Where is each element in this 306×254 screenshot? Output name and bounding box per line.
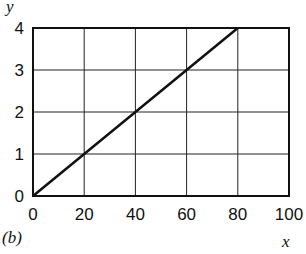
y-tick-label: 4	[15, 19, 24, 38]
x-axis-label: x	[281, 232, 290, 251]
x-tick-label: 80	[228, 205, 247, 224]
y-tick-labels: 01234	[15, 19, 24, 206]
x-tick-labels: 020406080100	[28, 205, 303, 224]
x-tick-label: 60	[177, 205, 196, 224]
x-tick-label: 40	[126, 205, 145, 224]
x-tick-label: 100	[275, 205, 303, 224]
y-tick-label: 0	[15, 187, 24, 206]
y-tick-label: 2	[15, 103, 24, 122]
y-tick-label: 3	[15, 61, 24, 80]
grid-lines	[33, 28, 289, 196]
y-tick-label: 1	[15, 145, 24, 164]
chart: 020406080100 01234 y x (b)	[0, 0, 306, 254]
panel-label: (b)	[2, 228, 22, 247]
x-tick-label: 0	[28, 205, 37, 224]
x-tick-label: 20	[75, 205, 94, 224]
y-axis-label: y	[4, 0, 14, 16]
